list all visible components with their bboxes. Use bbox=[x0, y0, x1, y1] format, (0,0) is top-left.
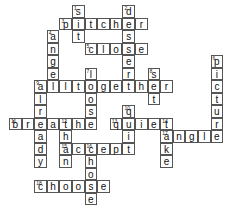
cell-letter: g bbox=[186, 131, 197, 142]
crossword-cell[interactable]: d bbox=[34, 143, 47, 156]
crossword-cell[interactable]: l bbox=[34, 93, 47, 106]
crossword-cell[interactable]: t bbox=[122, 80, 135, 93]
crossword-cell[interactable]: o bbox=[59, 180, 72, 193]
crossword-cell[interactable]: 5c bbox=[85, 43, 98, 56]
crossword-cell[interactable]: i bbox=[135, 118, 148, 131]
crossword-cell[interactable]: 13q bbox=[110, 118, 123, 131]
crossword-cell[interactable]: 18c bbox=[34, 180, 47, 193]
crossword-cell[interactable]: k bbox=[160, 143, 173, 156]
cell-letter: e bbox=[35, 119, 46, 130]
crossword-cell[interactable]: t bbox=[85, 18, 98, 31]
cell-letter: e bbox=[111, 81, 122, 92]
crossword-cell[interactable]: c bbox=[97, 18, 110, 31]
crossword-cell[interactable]: e bbox=[122, 18, 135, 31]
crossword-cell[interactable]: e bbox=[110, 80, 123, 93]
crossword-cell[interactable]: h bbox=[135, 80, 148, 93]
crossword-cell[interactable]: g bbox=[47, 55, 60, 68]
cell-letter: n bbox=[48, 44, 59, 55]
crossword-cell[interactable]: t bbox=[122, 143, 135, 156]
crossword-cell[interactable]: s bbox=[122, 43, 135, 56]
crossword-cell[interactable]: 7l bbox=[85, 68, 98, 81]
crossword-cell[interactable]: g bbox=[97, 80, 110, 93]
crossword-cell[interactable]: i bbox=[72, 18, 85, 31]
crossword-cell[interactable]: e bbox=[211, 130, 224, 143]
crossword-cell[interactable]: i bbox=[211, 68, 224, 81]
crossword-cell[interactable]: p bbox=[110, 143, 123, 156]
cell-letter: a bbox=[35, 131, 46, 142]
cell-letter: h bbox=[73, 119, 84, 130]
crossword-cell[interactable]: s bbox=[85, 105, 98, 118]
crossword-cell[interactable]: 11b bbox=[9, 118, 22, 131]
crossword-cell[interactable]: o bbox=[72, 180, 85, 193]
crossword-cell[interactable]: u bbox=[211, 105, 224, 118]
crossword-cell[interactable]: n bbox=[59, 155, 72, 168]
crossword-cell[interactable]: s bbox=[85, 180, 98, 193]
crossword-cell[interactable]: 1s bbox=[72, 5, 85, 18]
crossword-cell[interactable]: e bbox=[85, 193, 98, 206]
crossword-cell[interactable]: a bbox=[47, 118, 60, 131]
crossword-cell[interactable]: g bbox=[185, 130, 198, 143]
crossword-cell[interactable]: r bbox=[211, 118, 224, 131]
crossword-cell[interactable]: 2d bbox=[122, 5, 135, 18]
crossword-cell[interactable]: e bbox=[148, 80, 161, 93]
crossword-cell[interactable]: o bbox=[85, 168, 98, 181]
crossword-cell[interactable]: e bbox=[135, 43, 148, 56]
crossword-cell[interactable]: e bbox=[160, 155, 173, 168]
cell-letter: e bbox=[98, 144, 109, 155]
crossword-cell[interactable]: h bbox=[110, 18, 123, 31]
cell-letter: t bbox=[123, 144, 134, 155]
crossword-cell[interactable]: l bbox=[198, 130, 211, 143]
crossword-cell[interactable]: 8s bbox=[148, 68, 161, 81]
crossword-cell[interactable]: i bbox=[122, 130, 135, 143]
crossword-cell[interactable]: 4a bbox=[47, 30, 60, 43]
crossword-cell[interactable]: e bbox=[47, 68, 60, 81]
crossword-cell[interactable]: l bbox=[97, 43, 110, 56]
crossword-cell[interactable]: o bbox=[85, 93, 98, 106]
crossword-cell[interactable]: h bbox=[85, 155, 98, 168]
crossword-cell[interactable]: r bbox=[160, 80, 173, 93]
crossword-cell[interactable]: l bbox=[47, 80, 60, 93]
crossword-cell[interactable]: 3p bbox=[59, 18, 72, 31]
crossword-cell[interactable]: 16c bbox=[85, 143, 98, 156]
crossword-cell[interactable]: e bbox=[97, 180, 110, 193]
crossword-cell[interactable]: 15a bbox=[59, 143, 72, 156]
crossword-cell[interactable]: c bbox=[211, 80, 224, 93]
crossword-cell[interactable]: c bbox=[72, 143, 85, 156]
crossword-cell[interactable]: 9a bbox=[34, 80, 47, 93]
crossword-cell[interactable]: r bbox=[22, 118, 35, 131]
crossword-cell[interactable]: h bbox=[59, 130, 72, 143]
crossword-cell[interactable]: e bbox=[85, 118, 98, 131]
cell-letter: h bbox=[86, 156, 97, 167]
crossword-cell[interactable]: n bbox=[173, 130, 186, 143]
crossword-cell[interactable]: r bbox=[135, 18, 148, 31]
crossword-cell[interactable]: e bbox=[97, 143, 110, 156]
crossword-cell[interactable]: o bbox=[85, 80, 98, 93]
crossword-cell[interactable]: t bbox=[72, 30, 85, 43]
crossword-cell[interactable]: t bbox=[211, 93, 224, 106]
crossword-cell[interactable]: 10q bbox=[122, 105, 135, 118]
crossword-cell[interactable]: o bbox=[110, 43, 123, 56]
crossword-cell[interactable]: r bbox=[34, 105, 47, 118]
crossword-cell[interactable]: h bbox=[47, 180, 60, 193]
crossword-cell[interactable]: h bbox=[72, 118, 85, 131]
crossword-cell[interactable]: t bbox=[72, 80, 85, 93]
crossword-cell[interactable]: n bbox=[47, 43, 60, 56]
crossword-cell[interactable]: e bbox=[34, 118, 47, 131]
cell-letter: s bbox=[123, 44, 134, 55]
crossword-cell[interactable]: e bbox=[148, 118, 161, 131]
crossword-cell[interactable]: y bbox=[34, 155, 47, 168]
crossword-cell[interactable]: 14t bbox=[160, 118, 173, 131]
cell-letter: e bbox=[212, 131, 223, 142]
crossword-cell[interactable]: t bbox=[148, 93, 161, 106]
cell-letter: g bbox=[48, 56, 59, 67]
crossword-cell[interactable]: s bbox=[122, 30, 135, 43]
crossword-cell[interactable]: 6p bbox=[211, 55, 224, 68]
cell-letter: a bbox=[161, 131, 172, 142]
crossword-cell[interactable]: e bbox=[122, 55, 135, 68]
crossword-cell[interactable]: 17a bbox=[160, 130, 173, 143]
crossword-cell[interactable]: a bbox=[34, 130, 47, 143]
crossword-cell[interactable]: u bbox=[122, 118, 135, 131]
crossword-cell[interactable]: r bbox=[122, 68, 135, 81]
crossword-cell[interactable]: l bbox=[59, 80, 72, 93]
crossword-cell[interactable]: 12t bbox=[59, 118, 72, 131]
